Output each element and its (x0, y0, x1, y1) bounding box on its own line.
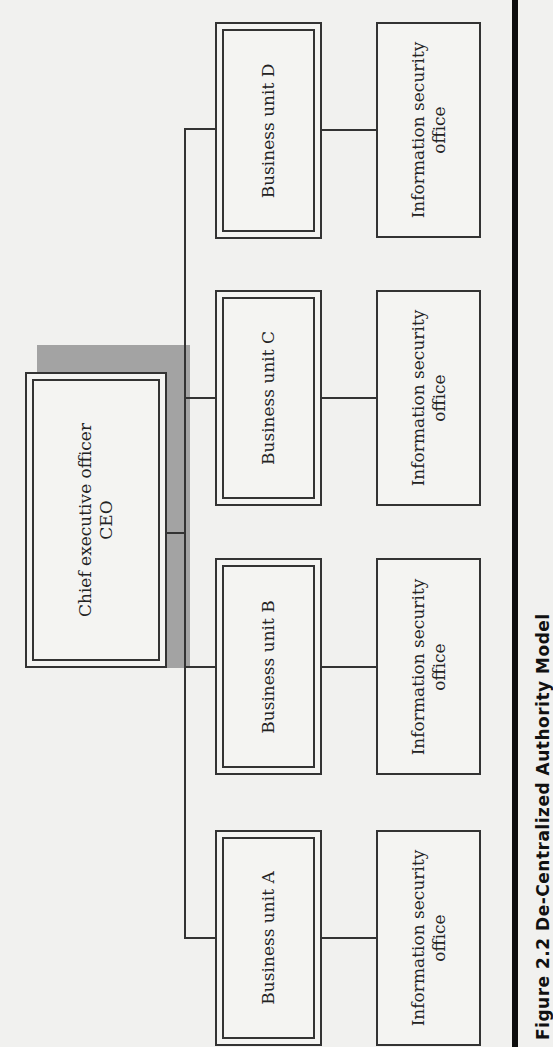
business-unit-d-label: Business unit D (258, 63, 279, 198)
ceo-title: Chief executive officer (75, 423, 96, 617)
office-connector-b (322, 666, 377, 668)
branch-connector-a (184, 937, 216, 939)
security-office-b-label: Information security office (407, 578, 450, 755)
branch-connector-c (184, 397, 216, 399)
ceo-box[interactable]: Chief executive officer CEO (25, 372, 167, 668)
business-unit-a-label: Business unit A (258, 871, 279, 1004)
business-unit-b[interactable]: Business unit B (215, 558, 322, 775)
ceo-label: Chief executive officer CEO (75, 423, 118, 617)
security-office-a[interactable]: Information security office (376, 830, 481, 1046)
ceo-connector (166, 532, 186, 534)
security-office-c[interactable]: Information security office (376, 290, 481, 506)
security-office-b[interactable]: Information security office (376, 558, 481, 775)
business-unit-a[interactable]: Business unit A (215, 830, 322, 1046)
office-connector-a (322, 937, 377, 939)
spine-connector (184, 128, 186, 939)
business-unit-b-label: Business unit B (258, 600, 279, 734)
branch-connector-d (184, 128, 216, 130)
security-office-c-line1: Information security (407, 310, 428, 487)
security-office-d-label: Information security office (407, 42, 450, 219)
business-unit-d[interactable]: Business unit D (215, 22, 322, 239)
security-office-a-label: Information security office (407, 850, 450, 1027)
figure-caption: Figure 2.2 De-Centralized Authority Mode… (533, 613, 553, 1040)
security-office-d-line1: Information security (407, 42, 428, 219)
security-office-c-label: Information security office (407, 310, 450, 487)
security-office-b-line1: Information security (407, 578, 428, 755)
security-office-a-line1: Information security (407, 850, 428, 1027)
security-office-a-line2: office (429, 850, 450, 1027)
security-office-d[interactable]: Information security office (376, 22, 481, 238)
business-unit-c-label: Business unit C (258, 331, 279, 465)
security-office-b-line2: office (429, 578, 450, 755)
office-connector-c (322, 397, 377, 399)
security-office-c-line2: office (429, 310, 450, 487)
branch-connector-b (184, 666, 216, 668)
caption-rule (512, 0, 518, 1047)
office-connector-d (322, 129, 377, 131)
ceo-abbrev: CEO (96, 423, 117, 617)
business-unit-c[interactable]: Business unit C (215, 290, 322, 506)
security-office-d-line2: office (429, 42, 450, 219)
